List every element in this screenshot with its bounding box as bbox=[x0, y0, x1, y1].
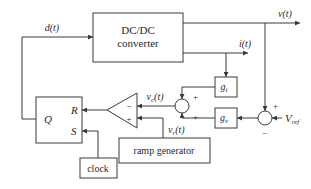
d-signal-label: d(t) bbox=[45, 22, 60, 34]
gi-to-junction-wire bbox=[182, 87, 215, 99]
comparator-minus-sign: − bbox=[126, 101, 131, 111]
current-junction-bottom-sign: + bbox=[193, 112, 198, 122]
converter-label-line1: DC/DC bbox=[121, 24, 155, 36]
clock-to-s-wire bbox=[82, 131, 98, 158]
current-summing-junction bbox=[175, 99, 189, 113]
vr-wire bbox=[137, 118, 163, 138]
latch-r-label: R bbox=[70, 104, 78, 116]
clock-label: clock bbox=[87, 163, 109, 174]
latch-q-label: Q bbox=[44, 113, 52, 125]
vc-signal-label: vc(t) bbox=[146, 91, 164, 104]
control-block-diagram: DC/DC converter v(t) i(t) gi + + gv + − … bbox=[0, 0, 311, 189]
converter-label-line2: converter bbox=[117, 37, 159, 49]
gv-to-junction-wire bbox=[182, 113, 215, 118]
ramp-generator-label: ramp generator bbox=[134, 145, 195, 156]
vr-signal-label: vr(t) bbox=[168, 124, 185, 137]
current-junction-top-sign: + bbox=[193, 92, 198, 102]
voltage-junction-bottom-sign: − bbox=[262, 128, 267, 138]
voltage-summing-junction bbox=[258, 111, 272, 125]
v-signal-label: v(t) bbox=[278, 8, 293, 20]
i-signal-label: i(t) bbox=[239, 38, 252, 50]
latch-s-label: S bbox=[71, 125, 77, 137]
comparator-plus-sign: + bbox=[126, 114, 131, 124]
vref-label: Vref bbox=[285, 112, 300, 126]
comparator bbox=[107, 93, 137, 128]
voltage-junction-top-sign: + bbox=[273, 101, 278, 111]
